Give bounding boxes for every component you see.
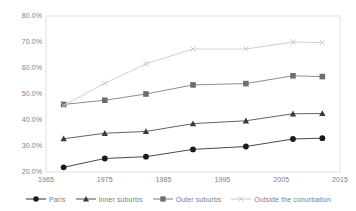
y-tick-label: 70.0%	[2, 38, 42, 45]
chart-legend: ParisInner suburbsOuter suburbsOutside t…	[0, 190, 356, 208]
x-tick-label: 1965	[28, 176, 64, 183]
series-paris	[61, 135, 326, 170]
data-point	[143, 61, 148, 66]
x-tick-label: 1975	[87, 176, 123, 183]
legend-item-paris[interactable]: Paris	[25, 194, 65, 204]
data-point	[190, 82, 196, 88]
line-chart: 20.0%30.0%40.0%50.0%60.0%70.0%80.0% 1965…	[0, 0, 356, 211]
x-tick-label: 1995	[204, 176, 240, 183]
series-line	[64, 42, 323, 105]
data-point	[243, 81, 249, 87]
x-tick-label: 2015	[322, 176, 356, 183]
legend-label: Inner suburbs	[99, 196, 143, 203]
data-point	[320, 74, 326, 80]
square-marker-icon	[152, 194, 174, 204]
series-outer-suburbs	[61, 73, 325, 107]
series-line	[64, 138, 323, 167]
data-point	[319, 135, 325, 141]
data-point	[243, 144, 249, 150]
legend-item-inner-suburbs[interactable]: Inner suburbs	[75, 194, 143, 204]
y-tick-label: 40.0%	[2, 116, 42, 123]
legend-item-outside-the-conurbation[interactable]: Outside the conurbation	[230, 194, 331, 204]
y-tick-label: 20.0%	[2, 168, 42, 175]
data-point	[143, 154, 149, 160]
series-outside-the-conurbation	[61, 39, 325, 108]
y-tick-label: 50.0%	[2, 90, 42, 97]
y-tick-label: 30.0%	[2, 142, 42, 149]
triangle-marker-icon	[75, 194, 97, 204]
legend-item-outer-suburbs[interactable]: Outer suburbs	[152, 194, 222, 204]
data-point	[102, 156, 108, 162]
data-point	[61, 164, 67, 170]
series-inner-suburbs	[60, 110, 325, 141]
legend-label: Paris	[49, 196, 65, 203]
y-tick-label: 80.0%	[2, 12, 42, 19]
y-tick-label: 60.0%	[2, 64, 42, 71]
cross-marker-icon	[230, 194, 252, 204]
data-point	[143, 91, 149, 97]
data-point	[102, 81, 107, 86]
data-point	[102, 97, 108, 103]
data-point	[290, 136, 296, 142]
circle-marker-icon	[25, 194, 47, 204]
legend-label: Outside the conurbation	[254, 196, 331, 203]
data-point	[190, 146, 196, 152]
x-tick-label: 2005	[263, 176, 299, 183]
legend-label: Outer suburbs	[176, 196, 222, 203]
data-point	[290, 73, 296, 79]
x-tick-label: 1985	[146, 176, 182, 183]
